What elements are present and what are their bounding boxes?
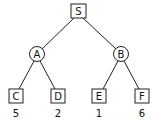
node-d-value: 2 (55, 108, 61, 119)
edge-s-b (83, 18, 116, 49)
node-a-label: A (34, 49, 41, 60)
node-c-value: 5 (13, 108, 19, 119)
edge-b-e (103, 61, 118, 89)
edge-a-d (40, 61, 55, 89)
node-f-value: 6 (139, 108, 145, 119)
game-tree-diagram: S A B C 5 D 2 E 1 F 6 (0, 0, 155, 127)
node-e-label: E (96, 91, 102, 102)
node-c: C 5 (9, 89, 23, 119)
node-e-value: 1 (96, 108, 102, 119)
node-s: S (71, 4, 86, 18)
node-d-label: D (54, 91, 62, 102)
edge-s-a (42, 18, 74, 49)
node-b: B (114, 47, 129, 62)
node-f-label: F (139, 91, 145, 102)
node-s-label: S (75, 6, 81, 17)
node-d: D 2 (51, 89, 65, 119)
node-a: A (30, 47, 45, 62)
node-c-label: C (13, 91, 20, 102)
node-f: F 6 (135, 89, 149, 119)
node-b-label: B (118, 49, 125, 60)
edge-b-f (124, 61, 139, 89)
node-e: E 1 (92, 89, 106, 119)
edge-a-c (19, 61, 34, 89)
